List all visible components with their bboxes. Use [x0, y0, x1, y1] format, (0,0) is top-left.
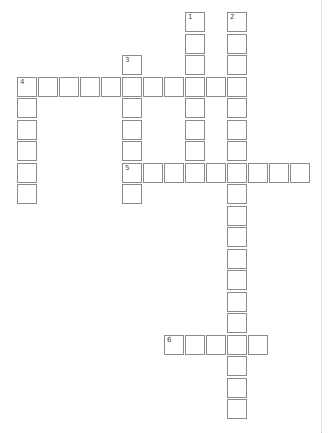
- crossword-cell[interactable]: [185, 77, 205, 97]
- crossword-cell[interactable]: 1: [185, 12, 205, 32]
- clue-number: 6: [167, 336, 171, 344]
- crossword-cell[interactable]: [269, 163, 289, 183]
- crossword-cell[interactable]: [122, 184, 142, 204]
- crossword-cell[interactable]: [248, 163, 268, 183]
- crossword-cell[interactable]: [227, 292, 247, 312]
- crossword-cell[interactable]: [17, 98, 37, 118]
- crossword-cell[interactable]: [122, 98, 142, 118]
- crossword-cell[interactable]: [227, 335, 247, 355]
- crossword-cell[interactable]: [227, 270, 247, 290]
- crossword-cell[interactable]: [227, 313, 247, 333]
- crossword-cell[interactable]: [206, 335, 226, 355]
- crossword-cell[interactable]: [143, 163, 163, 183]
- crossword-cell[interactable]: [17, 163, 37, 183]
- crossword-cell[interactable]: [185, 34, 205, 54]
- crossword-cell[interactable]: [227, 120, 247, 140]
- page-divider: [321, 0, 322, 433]
- crossword-cell[interactable]: [164, 163, 184, 183]
- crossword-cell[interactable]: [17, 120, 37, 140]
- crossword-cell[interactable]: [143, 77, 163, 97]
- crossword-cell[interactable]: [227, 378, 247, 398]
- crossword-cell[interactable]: 6: [164, 335, 184, 355]
- crossword-cell[interactable]: [227, 98, 247, 118]
- clue-number: 4: [20, 78, 24, 86]
- crossword-cell[interactable]: [185, 335, 205, 355]
- crossword-cell[interactable]: [185, 98, 205, 118]
- crossword-cell[interactable]: [206, 77, 226, 97]
- crossword-cell[interactable]: [122, 141, 142, 161]
- crossword-cell[interactable]: [59, 77, 79, 97]
- crossword-cell[interactable]: [206, 163, 226, 183]
- crossword-cell[interactable]: [227, 356, 247, 376]
- crossword-cell[interactable]: [227, 249, 247, 269]
- crossword-cell[interactable]: [248, 335, 268, 355]
- crossword-cell[interactable]: [122, 77, 142, 97]
- crossword-cell[interactable]: [185, 55, 205, 75]
- crossword-cell[interactable]: [227, 141, 247, 161]
- crossword-cell[interactable]: [290, 163, 310, 183]
- clue-number: 2: [230, 13, 234, 21]
- crossword-cell[interactable]: [227, 227, 247, 247]
- crossword-cell[interactable]: [227, 399, 247, 419]
- crossword-grid: 123546: [0, 0, 330, 433]
- crossword-cell[interactable]: [227, 184, 247, 204]
- crossword-cell[interactable]: [164, 77, 184, 97]
- crossword-cell[interactable]: 2: [227, 12, 247, 32]
- crossword-cell[interactable]: 5: [122, 163, 142, 183]
- crossword-cell[interactable]: [185, 141, 205, 161]
- clue-number: 1: [188, 13, 192, 21]
- crossword-cell[interactable]: [185, 120, 205, 140]
- crossword-cell[interactable]: [185, 163, 205, 183]
- crossword-cell[interactable]: [80, 77, 100, 97]
- crossword-cell[interactable]: [38, 77, 58, 97]
- crossword-cell[interactable]: [227, 77, 247, 97]
- clue-number: 5: [125, 164, 129, 172]
- crossword-cell[interactable]: 3: [122, 55, 142, 75]
- crossword-cell[interactable]: [122, 120, 142, 140]
- crossword-cell[interactable]: [227, 163, 247, 183]
- clue-number: 3: [125, 56, 129, 64]
- crossword-cell[interactable]: [227, 55, 247, 75]
- crossword-cell[interactable]: 4: [17, 77, 37, 97]
- crossword-cell[interactable]: [17, 141, 37, 161]
- crossword-cell[interactable]: [17, 184, 37, 204]
- crossword-cell[interactable]: [101, 77, 121, 97]
- crossword-cell[interactable]: [227, 206, 247, 226]
- crossword-cell[interactable]: [227, 34, 247, 54]
